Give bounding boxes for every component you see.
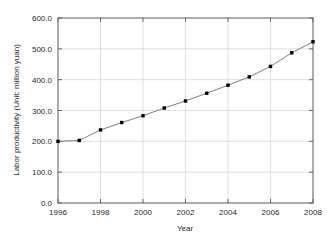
y-tick-label: 0.0 (41, 199, 53, 208)
x-tick-label: 2000 (134, 208, 152, 217)
x-tick-label: 2004 (219, 208, 237, 217)
data-point-marker (269, 65, 272, 68)
x-tick-label: 1998 (92, 208, 110, 217)
data-point-marker (78, 139, 81, 142)
y-tick-label: 500.0 (32, 45, 53, 54)
y-tick-label: 300.0 (32, 107, 53, 116)
data-point-marker (56, 140, 59, 143)
data-point-marker (290, 51, 293, 54)
x-tick-label: 2008 (304, 208, 322, 217)
x-tick-label: 2006 (262, 208, 280, 217)
line-chart: 0.0100.0200.0300.0400.0500.0600.0 199619… (0, 0, 330, 241)
data-point-marker (120, 121, 123, 124)
x-tick-label: 1996 (49, 208, 67, 217)
y-tick-label: 100.0 (32, 168, 53, 177)
y-tick-label: 400.0 (32, 76, 53, 85)
y-tick-label: 200.0 (32, 137, 53, 146)
y-tick-label: 600.0 (32, 14, 53, 23)
data-point-marker (184, 99, 187, 102)
y-axis-title: Labor productivity (Unit: million yuan) (12, 44, 21, 176)
data-point-marker (141, 114, 144, 117)
x-axis-title: Year (177, 224, 194, 233)
data-point-marker (226, 84, 229, 87)
data-point-marker (248, 75, 251, 78)
data-point-marker (205, 92, 208, 95)
data-point-marker (99, 128, 102, 131)
chart-figure: 0.0100.0200.0300.0400.0500.0600.0 199619… (0, 0, 330, 241)
x-tick-label: 2002 (177, 208, 195, 217)
data-point-marker (311, 40, 314, 43)
data-point-marker (163, 106, 166, 109)
